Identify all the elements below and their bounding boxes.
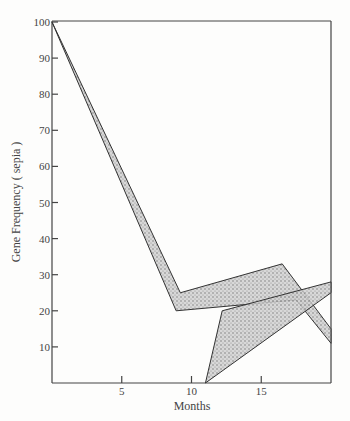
y-tick-label: 40 bbox=[39, 233, 51, 245]
x-tick-label: 5 bbox=[119, 385, 125, 397]
y-tick-label: 60 bbox=[39, 160, 51, 172]
x-axis-title: Months bbox=[174, 399, 211, 413]
y-ticks: 102030405060708090100 bbox=[34, 16, 59, 353]
y-tick-label: 70 bbox=[39, 124, 51, 136]
data-bands bbox=[52, 22, 331, 383]
y-tick-label: 20 bbox=[39, 305, 51, 317]
y-tick-label: 80 bbox=[39, 88, 51, 100]
plot-frame bbox=[52, 21, 331, 383]
gene-frequency-chart: 102030405060708090100 51015 Months Gene … bbox=[0, 0, 350, 421]
y-tick-label: 30 bbox=[39, 269, 51, 281]
x-ticks: 51015 bbox=[119, 376, 267, 397]
y-tick-label: 50 bbox=[39, 197, 51, 209]
y-axis-title: Gene Frequency ( sepia ) bbox=[9, 142, 23, 263]
y-tick-label: 10 bbox=[39, 341, 51, 353]
y-tick-label: 100 bbox=[34, 16, 51, 28]
x-tick-label: 15 bbox=[256, 385, 268, 397]
x-tick-label: 10 bbox=[186, 385, 198, 397]
y-tick-label: 90 bbox=[39, 52, 51, 64]
